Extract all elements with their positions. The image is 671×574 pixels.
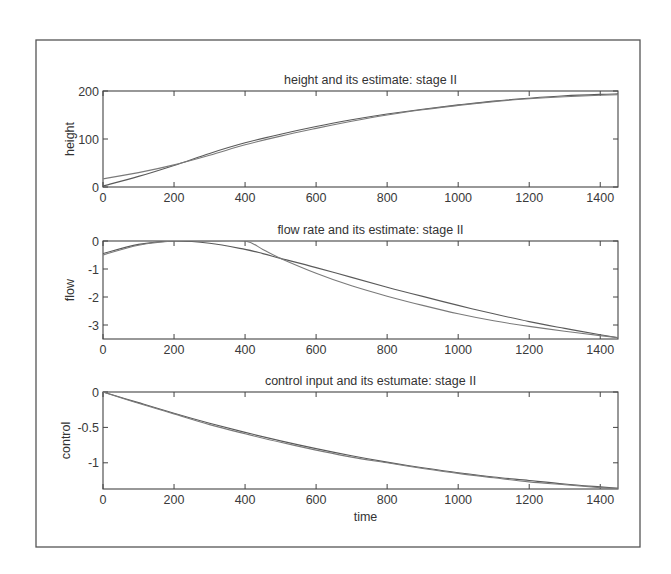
- y-axis-label: control: [59, 422, 73, 460]
- y-tick-label: -1: [88, 456, 99, 470]
- x-tick-label: 1000: [444, 493, 472, 507]
- x-tick-label: 1400: [586, 493, 614, 507]
- x-tick-label: 0: [100, 493, 107, 507]
- subplot-1: height and its estimate: stage II0200400…: [63, 73, 618, 205]
- x-tick-label: 1400: [586, 343, 614, 357]
- subplot-title: control input and its estumate: stage II: [265, 374, 476, 388]
- axes-box: [103, 392, 618, 489]
- y-tick-label: 200: [78, 85, 99, 99]
- y-tick-label: 0: [92, 235, 99, 249]
- y-tick-label: 0: [92, 386, 99, 400]
- x-tick-label: 1200: [515, 343, 543, 357]
- y-axis-label: flow: [63, 278, 77, 301]
- x-tick-label: 800: [377, 343, 398, 357]
- x-tick-label: 1200: [515, 191, 543, 205]
- y-tick-label: -1: [88, 263, 99, 277]
- subplot-2: flow rate and its estimate: stage II0200…: [63, 223, 618, 357]
- y-tick-label: -3: [88, 319, 99, 333]
- y-tick-label: 100: [78, 133, 99, 147]
- x-tick-label: 400: [235, 493, 256, 507]
- x-tick-label: 200: [164, 493, 185, 507]
- x-tick-label: 1200: [515, 493, 543, 507]
- y-axis-label: height: [63, 121, 77, 156]
- x-tick-label: 400: [235, 343, 256, 357]
- x-axis-label: time: [354, 510, 378, 524]
- x-tick-label: 1000: [444, 343, 472, 357]
- x-tick-label: 200: [164, 343, 185, 357]
- figure: height and its estimate: stage II0200400…: [0, 0, 671, 574]
- x-tick-label: 600: [306, 191, 327, 205]
- x-tick-label: 0: [100, 343, 107, 357]
- subplots: height and its estimate: stage II0200400…: [59, 73, 618, 524]
- y-tick-label: -0.5: [77, 421, 99, 435]
- x-tick-label: 1000: [444, 191, 472, 205]
- x-tick-label: 800: [377, 191, 398, 205]
- x-tick-label: 1400: [586, 191, 614, 205]
- subplot-title: height and its estimate: stage II: [284, 73, 457, 87]
- x-tick-label: 0: [100, 191, 107, 205]
- subplot-title: flow rate and its estimate: stage II: [277, 223, 463, 237]
- x-tick-label: 600: [306, 343, 327, 357]
- axes-box: [103, 91, 618, 187]
- y-tick-label: 0: [92, 181, 99, 195]
- x-tick-label: 200: [164, 191, 185, 205]
- x-tick-label: 400: [235, 191, 256, 205]
- y-tick-label: -2: [88, 291, 99, 305]
- x-tick-label: 800: [377, 493, 398, 507]
- x-tick-label: 600: [306, 493, 327, 507]
